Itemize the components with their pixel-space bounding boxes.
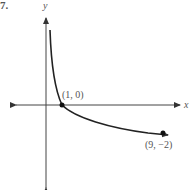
log-curve: [50, 30, 168, 135]
x-axis-label: x: [183, 99, 189, 110]
point-label-1-0: (1, 0): [62, 89, 84, 101]
graph-figure: 7. x y (1, 0) (9, −2): [0, 0, 192, 190]
figure-number: 7.: [0, 0, 9, 11]
y-axis-label: y: [42, 0, 48, 11]
point-label-9-neg2: (9, −2): [145, 139, 172, 151]
point-1-0: [60, 103, 65, 108]
point-9-neg2: [161, 131, 166, 136]
